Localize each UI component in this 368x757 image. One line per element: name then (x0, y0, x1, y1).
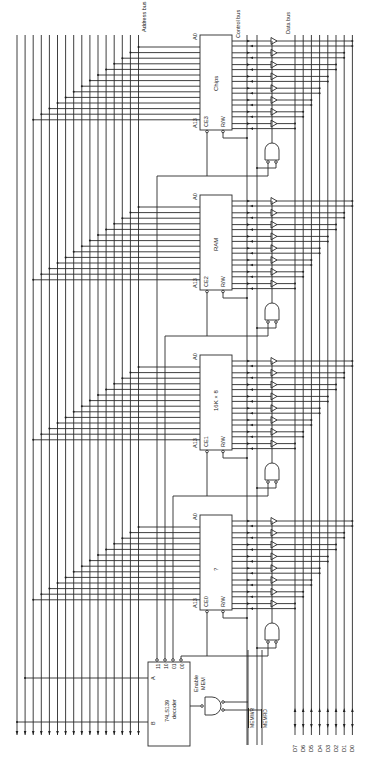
chip-a13-label: A13 (192, 278, 198, 288)
decoder-output-01: 01 (171, 663, 177, 669)
chip-rw-label: R/W (220, 596, 226, 607)
data-line-label: D2 (333, 745, 339, 752)
memory-chips (32, 35, 353, 745)
data-line-label: D0 (349, 745, 355, 752)
chip-ce-label: CE0 (203, 596, 209, 607)
control-bus-label: Control bus (235, 10, 241, 38)
chip-a0-label: A0 (192, 353, 198, 360)
chip-rw-label: R/W (220, 436, 226, 447)
data-line-label: D6 (300, 745, 306, 752)
data-line-label: D7 (292, 745, 298, 752)
and-gate-icon (265, 143, 279, 160)
chip-a13-label: A13 (192, 438, 198, 448)
and-gate-icon (265, 623, 279, 640)
chip-a0-label: A0 (192, 33, 198, 40)
decoder-output-10: 10 (163, 663, 169, 669)
decoder-part-label: 74LS139 (164, 700, 170, 722)
data-line-label: D5 (308, 745, 314, 752)
chip-ce-label: CE1 (203, 436, 209, 447)
nand-gate-icon (205, 697, 221, 715)
decoder-output-11: 11 (155, 664, 161, 669)
chip-ce-label: CE3 (203, 116, 209, 127)
data-line-label: D3 (325, 745, 331, 752)
decoder-input-b: B (150, 721, 156, 725)
chip-rw-label: R/W (220, 116, 226, 127)
chip-title: RAM (213, 237, 219, 250)
chip-ce-label: CE2 (203, 276, 209, 287)
enable-mem-label: MEM (200, 677, 206, 690)
memwr-label: MEMWR (249, 708, 255, 728)
enable-label: Enable (193, 675, 199, 692)
chip-title: Chips (213, 75, 219, 90)
and-gate-icon (265, 303, 279, 320)
decoder-input-a: A (150, 676, 156, 680)
data-line-label: D1 (341, 745, 347, 752)
memrd-label: MEMRD (262, 709, 268, 728)
decoder-output-00: 00 (179, 663, 185, 669)
memory-decoding-schematic (0, 0, 368, 757)
chip-rw-label: R/W (220, 276, 226, 287)
address-bus-label: Address bus (141, 1, 147, 32)
and-gate-icon (265, 463, 279, 480)
chip-a13-label: A13 (192, 598, 198, 608)
address-bus (16, 35, 148, 735)
data-line-label: D4 (317, 745, 323, 752)
chip-title: ? (213, 567, 219, 570)
chip-a13-label: A13 (192, 118, 198, 128)
chip-a0-label: A0 (192, 193, 198, 200)
chip-title: 16K × 8 (213, 390, 219, 411)
decoder-subtitle: decoder (171, 699, 177, 719)
data-bus-label: Data bus (285, 12, 291, 34)
chip-a0-label: A0 (192, 513, 198, 520)
